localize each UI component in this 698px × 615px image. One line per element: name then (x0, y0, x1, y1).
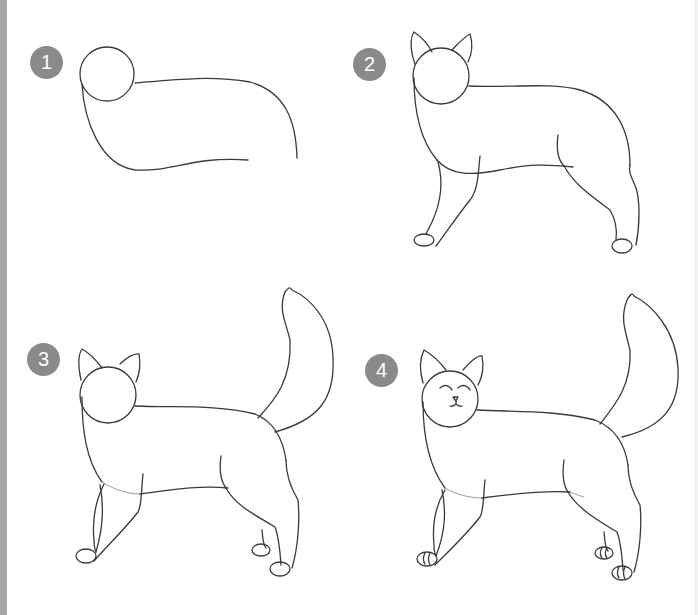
front-paw (414, 234, 434, 246)
hind-paw-back (252, 544, 270, 556)
head-circle (413, 48, 469, 104)
belly-curve (82, 84, 248, 170)
front-paw-toes (424, 553, 431, 565)
mouth (450, 401, 462, 406)
chest-line (82, 397, 102, 482)
head-circle (422, 371, 478, 427)
nose (453, 397, 458, 401)
back-line (477, 410, 628, 465)
tail-outline (258, 288, 333, 432)
belly-line (437, 160, 573, 173)
left-ear (420, 350, 446, 383)
hind-leg-front (564, 166, 616, 240)
front-leg-front (436, 156, 480, 246)
thigh-line (557, 135, 564, 166)
cat-drawing-steps (0, 0, 698, 615)
tail-outline (600, 294, 678, 437)
hind-leg-back (286, 460, 299, 568)
thigh-line (220, 456, 226, 488)
back-curve (135, 78, 297, 158)
left-ear (79, 349, 102, 380)
belly-line-faint (570, 492, 584, 497)
belly-line-2 (140, 487, 228, 494)
belly-line-2 (482, 491, 570, 498)
front-leg-back (426, 162, 441, 234)
hind-paw-back (595, 547, 613, 559)
left-eye-closed (440, 386, 452, 390)
hind-paw-front (270, 562, 290, 576)
back-line (135, 406, 286, 460)
step-1-drawing (80, 47, 297, 170)
belly-line (102, 482, 140, 494)
back-line (469, 86, 630, 165)
hind-leg-back (629, 165, 639, 245)
front-leg-front (94, 474, 143, 561)
hind-paw-front-toes (618, 567, 626, 579)
hind-paw-back-toes (601, 548, 608, 558)
right-ear (463, 356, 483, 385)
hind-paw (612, 239, 632, 253)
left-ear (411, 32, 432, 64)
front-paw (76, 549, 96, 563)
step-2-drawing (411, 32, 639, 253)
step-3-drawing (76, 288, 333, 576)
hind-paw-front (612, 566, 632, 580)
head-circle (80, 47, 134, 101)
belly-line (445, 488, 482, 498)
thigh-line (563, 460, 568, 492)
hind-leg-front (568, 492, 623, 570)
step-4-drawing (417, 294, 678, 580)
right-eye-closed (458, 386, 470, 390)
front-paw (417, 552, 437, 566)
hind-leg-back (628, 465, 641, 572)
head-circle (80, 367, 136, 423)
